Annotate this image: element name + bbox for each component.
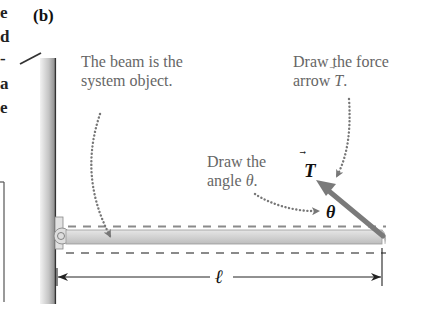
force-note-line1: Draw the force [293,52,389,71]
beam-note-line2: system object. [81,71,183,90]
wall [40,58,56,304]
angle-note: Draw the angle θ. [207,152,266,190]
length-label: ℓ [215,266,223,288]
vector-T-inline: ⃗T [334,71,343,90]
force-note-prefix: arrow [293,72,334,89]
force-note: Draw the force arrow ⃗T. [293,52,389,90]
left-box-edge [0,182,4,302]
force-note-line2: arrow ⃗T. [293,71,389,90]
angle-note-theta: θ [246,172,254,189]
slash-mark [20,53,41,64]
angle-note-pointer [255,194,318,211]
angle-label: θ [326,202,335,223]
force-note-pointer [337,99,350,176]
beam-note-line1: The beam is the [81,52,183,71]
tension-label: ⃗ T [304,160,316,182]
angle-note-line1: Draw the [207,152,266,171]
angle-note-suffix: . [254,172,258,189]
beam-note: The beam is the system object. [81,52,183,90]
angle-note-prefix: angle [207,172,246,189]
force-note-suffix: . [343,72,347,89]
angle-note-line2: angle θ. [207,171,266,190]
beam [66,230,382,244]
beam-note-pointer [91,114,110,236]
